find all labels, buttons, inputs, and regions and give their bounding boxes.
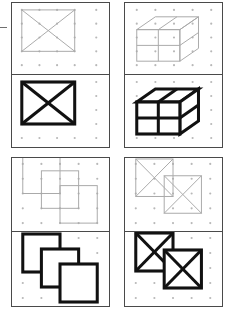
cube-figure <box>137 17 199 61</box>
cube-figure <box>137 89 199 134</box>
two-x-squares-figure <box>136 159 202 213</box>
item-3-copy-panel <box>12 232 109 306</box>
three-overlapping-squares-model <box>12 158 109 231</box>
rectangle-x-figure <box>22 10 75 51</box>
two-overlapping-x-squares-model <box>125 158 222 231</box>
cube-2x2-copy <box>125 75 222 147</box>
cube-2x2-model <box>125 3 222 74</box>
left-edge-tick-icon <box>0 27 7 28</box>
item-2-frame <box>124 2 223 148</box>
item-3-model-panel <box>12 158 109 232</box>
three-squares-cascade-figure <box>23 234 97 302</box>
rectangle-x-figure <box>22 82 75 124</box>
item-4-copy-panel <box>125 232 222 306</box>
item-2-model-panel <box>125 3 222 75</box>
item-3-frame <box>11 157 110 307</box>
figure-copy-sheet <box>0 0 229 309</box>
two-overlapping-x-squares-copy <box>125 232 222 306</box>
rectangle-with-x-copy <box>12 75 109 147</box>
dot-grid <box>21 9 98 66</box>
rectangle-with-x-model <box>12 3 109 74</box>
item-1-copy-panel <box>12 75 109 147</box>
three-squares-cascade-figure <box>23 158 97 223</box>
item-2-copy-panel <box>125 75 222 147</box>
item-4-frame <box>124 157 223 307</box>
item-4-model-panel <box>125 158 222 232</box>
item-1-model-panel <box>12 3 109 75</box>
dot-grid <box>136 9 213 66</box>
three-overlapping-squares-copy <box>12 232 109 306</box>
item-1-frame <box>11 2 110 148</box>
two-x-squares-figure <box>136 233 202 288</box>
